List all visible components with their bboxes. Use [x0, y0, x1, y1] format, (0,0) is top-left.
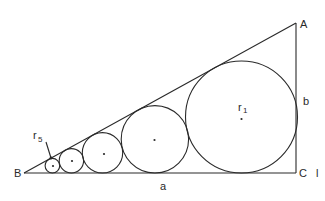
r5-pointer-line [46, 142, 51, 158]
radius-subscript-r1: 1 [243, 106, 248, 115]
center-dot-r5 [52, 165, 54, 167]
vertex-label-c: C [299, 167, 307, 179]
center-dot-r1 [240, 118, 242, 120]
side-label-a: a [160, 180, 167, 192]
circle-r3 [82, 133, 122, 173]
triangle-circles-diagram: A B C a b l r 1 r 5 [0, 0, 325, 201]
radius-label-r5: r [33, 129, 37, 141]
center-dot-r2 [153, 139, 155, 141]
radius-subscript-r5: 5 [38, 135, 43, 144]
r5-pointer-dot [50, 157, 53, 160]
circle-r1 [186, 61, 298, 173]
center-dot-r3 [103, 153, 105, 155]
vertex-label-a: A [300, 18, 308, 30]
extra-label-l: l [316, 167, 318, 179]
center-dot-r4 [71, 160, 73, 162]
vertex-label-b: B [14, 167, 21, 179]
circle-chain [45, 61, 297, 173]
radius-label-r1: r [238, 101, 242, 113]
side-label-b: b [303, 95, 309, 107]
